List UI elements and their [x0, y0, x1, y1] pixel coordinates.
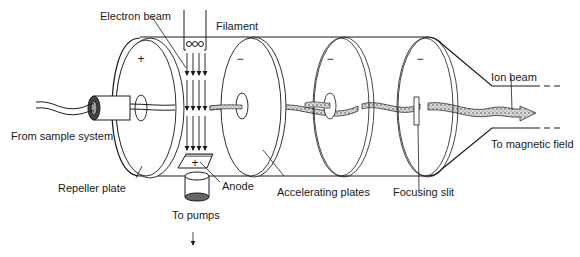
- ion-beam-segment: [305, 102, 330, 108]
- electron-beam: [187, 53, 205, 150]
- label-focusing-slit: Focusing slit: [393, 186, 454, 198]
- plate2-charge: −: [326, 52, 333, 66]
- ion-source-diagram: + +: [0, 0, 580, 257]
- anode-charge: +: [191, 156, 198, 170]
- label-to-pumps: To pumps: [172, 209, 220, 221]
- repeller-charge: +: [137, 52, 144, 66]
- diagram-canvas: + +: [0, 0, 580, 257]
- pump-port: [185, 172, 209, 201]
- label-electron-beam: Electron beam: [100, 10, 171, 22]
- label-repeller-plate: Repeller plate: [58, 182, 126, 194]
- label-from-sample-system: From sample system: [11, 130, 113, 142]
- plate1-charge: −: [236, 52, 243, 66]
- plate3-charge: −: [416, 52, 423, 66]
- label-ion-beam: Ion beam: [491, 71, 537, 83]
- filament: [184, 10, 206, 50]
- label-anode: Anode: [222, 180, 254, 192]
- label-accelerating-plates: Accelerating plates: [277, 186, 370, 198]
- focusing-slit: [414, 97, 419, 125]
- label-filament: Filament: [216, 20, 258, 32]
- label-to-magnetic-field: To magnetic field: [491, 138, 574, 150]
